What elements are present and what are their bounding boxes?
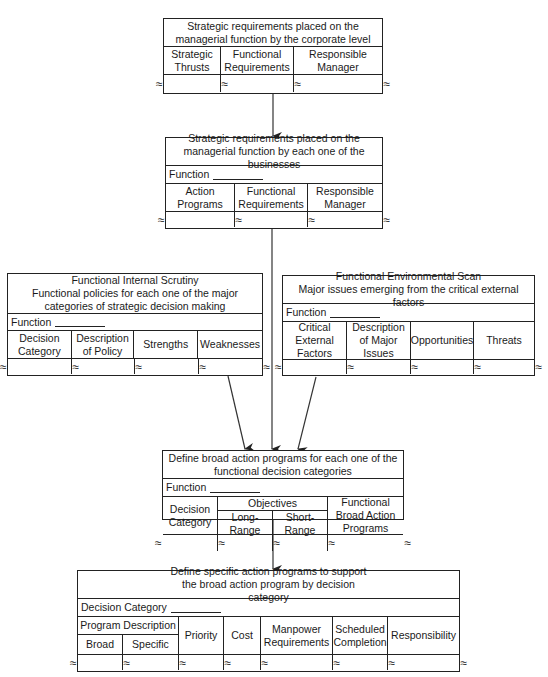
- broad-action-programs-title: Define broad action programs for each on…: [163, 451, 403, 479]
- continuation-row: ≈≈ ≈ ≈: [166, 212, 382, 227]
- internal-scrutiny-heading: Functional Internal Scrutiny: [71, 274, 198, 287]
- break-icon: ≈: [404, 537, 411, 549]
- break-icon: ≈: [0, 361, 7, 373]
- col-functional-requirements: Functional Requirements: [235, 184, 308, 211]
- internal-scrutiny-title: Functional Internal Scrutiny Functional …: [8, 274, 262, 314]
- continuation-row: ≈≈ ≈ ≈: [164, 75, 382, 92]
- col-responsible-manager: Responsible Manager: [308, 184, 382, 211]
- function-blank: [210, 483, 260, 493]
- broad-action-programs-box: Define broad action programs for each on…: [162, 450, 404, 520]
- col-scheduled-completion: Scheduled Completion: [333, 617, 388, 654]
- col-objectives: Objectives: [218, 497, 327, 511]
- col-weaknesses: Weaknesses: [198, 331, 262, 358]
- corporate-requirements-title: Strategic requirements placed on the man…: [164, 19, 382, 47]
- break-icon: ≈: [460, 657, 467, 669]
- function-blank: [213, 170, 263, 180]
- col-specific: Specific: [123, 635, 178, 654]
- col-strengths: Strengths: [134, 331, 198, 358]
- break-icon: ≈: [535, 361, 542, 373]
- break-icon: ≈: [158, 214, 165, 226]
- col-description-of-policy: Description of Policy: [72, 331, 135, 358]
- col-action-programs: Action Programs: [166, 184, 235, 211]
- col-program-description: Program Description: [78, 617, 178, 635]
- continuation-row: ≈≈ ≈ ≈ ≈: [8, 359, 262, 374]
- col-functional-broad-action-programs: Functional Broad Action Programs: [328, 497, 403, 534]
- col-responsibility: Responsibility: [388, 617, 459, 654]
- col-long-range: Long-Range: [218, 511, 273, 537]
- col-priority: Priority: [179, 617, 224, 654]
- col-broad: Broad: [78, 635, 123, 654]
- function-row: Function: [8, 314, 262, 331]
- corporate-requirements-box: Strategic requirements placed on the man…: [163, 18, 383, 94]
- col-strategic-thrusts: Strategic Thrusts: [164, 47, 221, 74]
- function-label: Function: [11, 316, 51, 329]
- col-manpower-requirements: Manpower Requirements: [261, 617, 333, 654]
- environmental-scan-heading: Functional Environmental Scan: [336, 270, 481, 283]
- col-cost: Cost: [224, 617, 261, 654]
- col-critical-external-factors: Critical External Factors: [283, 322, 347, 359]
- environmental-scan-title: Functional Environmental Scan Major issu…: [283, 276, 534, 304]
- environmental-scan-box: Functional Environmental Scan Major issu…: [282, 275, 535, 376]
- break-icon: ≈: [155, 537, 162, 549]
- break-icon: ≈: [263, 361, 270, 373]
- business-requirements-box: Strategic requirements placed on the man…: [165, 137, 383, 229]
- function-label: Function: [166, 481, 206, 494]
- specific-action-programs-title: Define specific action programs to suppo…: [78, 571, 459, 599]
- business-requirements-title: Strategic requirements placed on the man…: [166, 138, 382, 166]
- break-icon: ≈: [275, 361, 282, 373]
- continuation-row: ≈≈ ≈ ≈ ≈ ≈ ≈ ≈: [78, 655, 459, 670]
- col-threats: Threats: [474, 322, 534, 359]
- break-icon: ≈: [383, 78, 390, 90]
- col-functional-requirements: Functional Requirements: [221, 47, 294, 74]
- col-description-of-major-issues: Description of Major Issues: [347, 322, 411, 359]
- col-program-description-group: Program Description Broad Specific: [78, 617, 179, 654]
- col-short-range: Short-Range: [273, 511, 327, 537]
- continuation-row: ≈≈ ≈ ≈ ≈: [283, 360, 534, 374]
- col-decision-category: Decision Category: [163, 497, 218, 534]
- col-opportunities: Opportunities: [411, 322, 474, 359]
- function-label: Function: [169, 168, 209, 181]
- function-row: Function: [163, 479, 403, 497]
- col-decision-category: Decision Category: [8, 331, 72, 358]
- specific-action-programs-box: Define specific action programs to suppo…: [77, 570, 460, 672]
- col-responsible-manager: Responsible Manager: [294, 47, 382, 74]
- col-objectives-group: Objectives Long-Range Short-Range: [218, 497, 328, 534]
- function-blank: [330, 308, 380, 318]
- function-blank: [55, 317, 105, 327]
- internal-scrutiny-subtitle: Functional policies for each one of the …: [12, 287, 258, 313]
- break-icon: ≈: [156, 78, 163, 90]
- decision-category-label: Decision Category: [81, 601, 167, 614]
- function-label: Function: [286, 306, 326, 319]
- continuation-row: ≈≈ ≈ ≈ ≈: [163, 535, 403, 551]
- break-icon: ≈: [383, 214, 390, 226]
- internal-scrutiny-box: Functional Internal Scrutiny Functional …: [7, 273, 263, 376]
- break-icon: ≈: [70, 657, 77, 669]
- decision-category-blank: [171, 603, 221, 613]
